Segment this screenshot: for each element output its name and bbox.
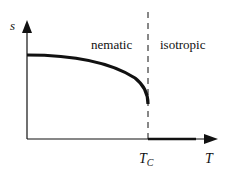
x-axis-label: T — [205, 151, 214, 166]
y-axis-arrow-icon — [22, 20, 32, 33]
tc-label: TC — [139, 151, 154, 168]
x-axis-arrow-icon — [204, 134, 218, 144]
nematic-curve — [27, 55, 148, 104]
isotropic-region-label: isotropic — [160, 37, 206, 52]
nematic-region-label: nematic — [91, 37, 132, 52]
order-parameter-chart: s T TC nematic isotropic — [0, 0, 229, 175]
y-axis-label: s — [10, 18, 15, 33]
